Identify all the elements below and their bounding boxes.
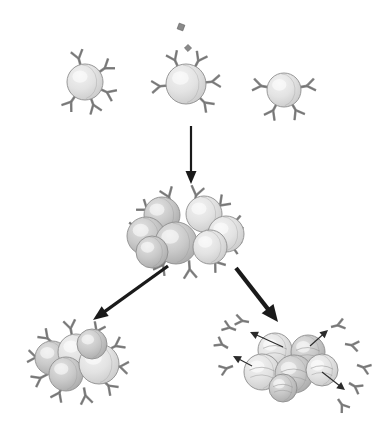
antigen-lower — [184, 44, 191, 51]
figure-canvas — [0, 0, 392, 422]
free-antibody-icon — [355, 360, 371, 374]
free-antibody-icon — [330, 319, 346, 332]
naive-cell-center[interactable] — [151, 50, 221, 112]
memory-cell-cluster[interactable] — [27, 319, 129, 404]
free-antibody-icon — [347, 379, 364, 394]
memory-branch-arrow — [93, 266, 168, 320]
free-antibody-icon — [334, 396, 350, 413]
plasma-branch-arrow — [236, 268, 278, 322]
free-antibody-icon — [218, 361, 234, 375]
clone-cluster-cell-5 — [193, 230, 227, 264]
clone-cluster-receptor-5 — [183, 260, 197, 279]
diagram-svg — [0, 0, 392, 422]
memory-cell-cluster-cell-4 — [77, 329, 107, 359]
free-antibody-icon — [214, 337, 231, 352]
proliferation-arrow — [186, 126, 197, 184]
free-antibody-icon — [344, 339, 359, 351]
clone-cluster-cell-6 — [136, 236, 168, 268]
naive-cell-center-body — [166, 64, 206, 104]
free-antibody-icon — [221, 321, 237, 335]
memory-cell-cluster-cell-2 — [49, 357, 83, 391]
clone-cluster[interactable] — [127, 185, 244, 278]
naive-cell-left-body — [67, 64, 103, 100]
memory-cell-cluster-receptor-5 — [78, 386, 93, 404]
naive-cell-right-body — [267, 73, 301, 107]
plasma-cell-cluster-cell-5 — [269, 374, 297, 402]
naive-cell-right[interactable] — [252, 73, 316, 121]
naive-lymphocyte-row — [61, 23, 315, 120]
naive-cell-left[interactable] — [61, 49, 116, 114]
plasma-cell-cluster[interactable] — [214, 315, 372, 413]
antigen-upper — [177, 23, 185, 31]
free-antibody-icon — [235, 315, 250, 327]
